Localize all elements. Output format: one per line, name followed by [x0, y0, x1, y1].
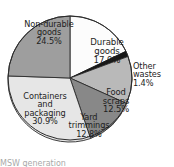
- pie-chart-figure: Non-durable goods 24.5% Durable goods 17…: [0, 0, 174, 167]
- pie-slice-non-durable-goods[interactable]: [8, 16, 70, 78]
- pie-chart-svg: [0, 0, 174, 167]
- pie-slices: [8, 16, 132, 142]
- figure-caption: MSW generation: [0, 159, 174, 167]
